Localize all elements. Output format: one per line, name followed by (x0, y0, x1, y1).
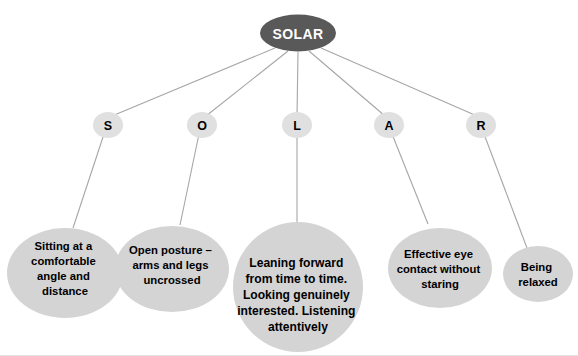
solar-diagram: SOLAR S O L A R Sitting at a comf (0, 0, 578, 356)
node-leaf-s[interactable]: Sitting at a comfortable angle and dista… (7, 228, 123, 318)
connector-r-to-leaf (484, 134, 527, 248)
letter-label-o: O (197, 119, 207, 133)
node-leaf-r[interactable]: Being relaxed (503, 246, 573, 302)
connector-group-root (112, 48, 477, 116)
connector-a-to-leaf (392, 134, 428, 224)
node-letter-s[interactable]: S (93, 112, 123, 138)
node-letter-l[interactable]: L (282, 112, 312, 138)
letter-label-s: S (104, 119, 112, 133)
connector-s-to-leaf (73, 134, 104, 228)
letter-label-l: L (293, 119, 301, 133)
node-leaf-l[interactable]: Leaning forward from time to time. Looki… (233, 222, 363, 352)
node-leaf-o[interactable]: Open posture – arms and legs uncrossed (115, 226, 229, 312)
letter-label-r: R (476, 119, 485, 133)
connector-root-to-l (297, 52, 298, 116)
node-letter-o[interactable]: O (187, 112, 217, 138)
node-leaf-a[interactable]: Effective eye contact without staring (388, 228, 492, 308)
connector-root-to-o (206, 51, 288, 116)
connector-root-to-s (112, 48, 275, 116)
leaf-ellipse-r (503, 246, 573, 302)
connector-root-to-a (309, 51, 385, 116)
root-label: SOLAR (273, 26, 324, 42)
connector-o-to-leaf (180, 134, 199, 225)
letter-label-a: A (384, 119, 393, 133)
node-letter-a[interactable]: A (374, 112, 404, 138)
node-root[interactable]: SOLAR (260, 15, 336, 52)
diagram-canvas: SOLAR S O L A R Sitting at a comf (0, 0, 578, 356)
node-letter-r[interactable]: R (466, 112, 496, 138)
